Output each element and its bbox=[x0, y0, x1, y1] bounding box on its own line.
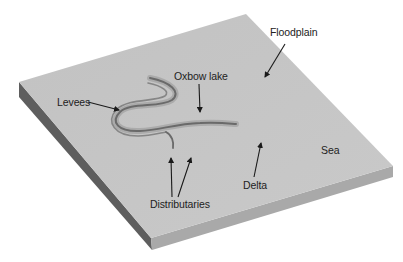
label-sea: Sea bbox=[321, 145, 339, 156]
label-floodplain: Floodplain bbox=[270, 27, 317, 38]
label-oxbow-lake: Oxbow lake bbox=[174, 71, 228, 82]
block-illustration bbox=[0, 0, 403, 262]
river-landforms-diagram: Floodplain Oxbow lake Levees Distributar… bbox=[0, 0, 403, 262]
label-levees: Levees bbox=[57, 97, 90, 108]
label-delta: Delta bbox=[243, 180, 267, 191]
label-distributaries: Distributaries bbox=[150, 199, 210, 210]
